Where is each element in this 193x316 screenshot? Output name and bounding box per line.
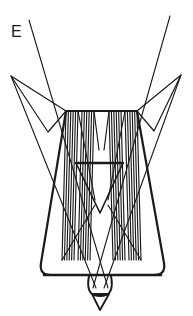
technical-line-drawing <box>0 0 193 316</box>
figure-container: E <box>0 0 193 316</box>
figure-label: E <box>11 24 22 40</box>
